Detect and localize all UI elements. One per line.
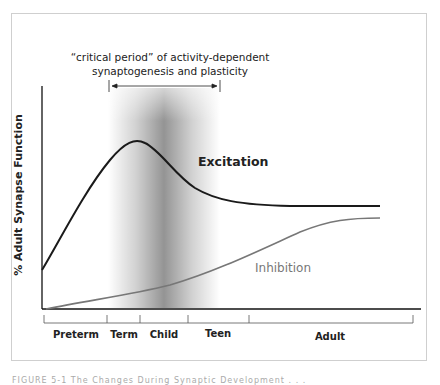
stage-label-adult: Adult [315, 331, 345, 342]
inhibition-label: Inhibition [255, 261, 311, 275]
figure-caption: FIGURE 5-1 The Changes During Synaptic D… [12, 376, 306, 385]
stage-label-child: Child [150, 329, 178, 340]
chart-plot: Excitation Inhibition Preterm Term Child… [0, 0, 440, 385]
stage-timeline [44, 315, 413, 323]
stage-label-teen: Teen [205, 328, 231, 339]
excitation-label: Excitation [198, 154, 268, 169]
stage-label-term: Term [110, 329, 138, 340]
stage-label-preterm: Preterm [53, 329, 99, 340]
